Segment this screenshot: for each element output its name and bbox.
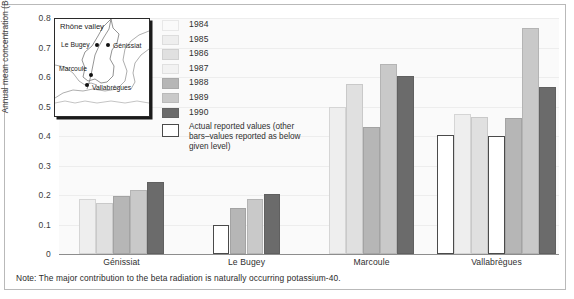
y-tick-label: 0.6: [5, 72, 56, 82]
y-tick-label: 0.1: [5, 220, 56, 230]
bar-vallabrgues-1990: [539, 87, 556, 254]
map-label-genissiat: Génissiat: [113, 42, 141, 49]
bar-lebugey-1988: [230, 208, 247, 254]
bar-vallabrgues-1986: [471, 117, 488, 254]
legend-label-1988: 1988: [189, 77, 209, 87]
y-tick-label: 0.3: [5, 161, 56, 171]
legend-note-text: Actual reported values (other bars–value…: [189, 122, 311, 153]
bar-vallabrgues-1984: [437, 135, 454, 254]
map-label-le-bugey: Le Bugey: [61, 41, 90, 48]
legend-swatch-1990: [162, 108, 179, 119]
y-tick-label: 0.7: [5, 43, 56, 53]
group-label-marcoule: Marcoule: [309, 257, 434, 267]
bar-vallabrgues-1985: [454, 114, 471, 254]
chart-panel: 00.10.20.30.40.50.60.70.8 Annual mean co…: [4, 4, 566, 290]
legend-swatch-actual-reported: [162, 124, 179, 137]
bar-marcoule-1986: [346, 84, 363, 254]
bar-lebugey-1990: [264, 194, 281, 254]
y-tick-label: 0.2: [5, 190, 56, 200]
footer-note-bar: Note: The major contribution to the beta…: [4, 268, 566, 290]
legend-swatch-1985: [162, 35, 179, 46]
legend-item-1986: 1986: [162, 47, 302, 62]
y-axis-label: Annual mean concentration (Bq/l): [1, 0, 10, 136]
map-title: Rhône valley: [60, 22, 104, 31]
bar-lebugey-1987: [213, 225, 230, 255]
bar-gnissiat-1988: [113, 196, 130, 254]
chart-screenshot: 00.10.20.30.40.50.60.70.8 Annual mean co…: [0, 0, 574, 299]
bar-marcoule-1985: [329, 107, 346, 255]
legend-label-1986: 1986: [189, 48, 209, 58]
legend-swatch-1986: [162, 49, 179, 60]
bar-vallabrgues-1987: [488, 136, 505, 254]
legend-swatch-1984: [162, 20, 179, 31]
legend-swatch-1988: [162, 78, 179, 89]
legend-label-1987: 1987: [189, 63, 209, 73]
legend-item-1984: 1984: [162, 18, 302, 33]
map-inset: Rhône valley Le Bugey Génissiat Marcoule…: [54, 18, 150, 117]
legend-item-1989: 1989: [162, 91, 302, 106]
bar-gnissiat-1989: [130, 190, 147, 254]
legend-label-1989: 1989: [189, 92, 209, 102]
bar-vallabrgues-1988: [505, 118, 522, 254]
legend-label-1985: 1985: [189, 34, 209, 44]
bar-vallabrgues-1989: [522, 28, 539, 254]
bar-gnissiat-1985: [79, 199, 96, 254]
legend-swatch-1987: [162, 64, 179, 75]
y-tick-label: 0.5: [5, 102, 56, 112]
y-tick-label: 0.4: [5, 131, 56, 141]
footer-note-text: Note: The major contribution to the beta…: [16, 273, 341, 283]
group-label-gnissiat: Génissiat: [59, 257, 184, 267]
y-tick-label: 0.8: [5, 13, 56, 23]
legend-item-1987: 1987: [162, 62, 302, 77]
bar-marcoule-1990: [397, 76, 414, 254]
bar-marcoule-1988: [363, 127, 380, 254]
legend: 1984198519861987198819891990: [162, 18, 302, 120]
y-tick-label: 0: [5, 249, 56, 259]
map-label-vallabregues: Vallabrègues: [92, 84, 131, 91]
legend-swatch-1989: [162, 93, 179, 104]
legend-item-1990: 1990: [162, 106, 302, 121]
bar-lebugey-1989: [247, 199, 264, 254]
bar-marcoule-1989: [380, 64, 397, 254]
legend-item-1985: 1985: [162, 33, 302, 48]
legend-item-1988: 1988: [162, 76, 302, 91]
legend-label-1990: 1990: [189, 107, 209, 117]
legend-label-1984: 1984: [189, 19, 209, 29]
bar-gnissiat-1990: [147, 182, 164, 254]
bar-gnissiat-1986: [96, 203, 113, 254]
group-label-vallabrgues: Vallabrègues: [434, 257, 559, 267]
map-label-marcoule: Marcoule: [59, 65, 87, 72]
x-axis-line: [59, 254, 559, 255]
group-label-lebugey: Le Bugey: [184, 257, 309, 267]
